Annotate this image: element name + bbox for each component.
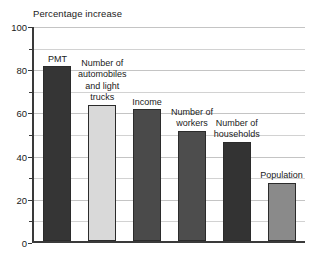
y-tick-minor-90 [29,49,32,50]
y-tick-80 [28,70,32,71]
y-tick-20 [28,200,32,201]
y-tick-0 [28,243,32,244]
bar-label: Population [250,170,313,182]
chart-title: Percentage increase [33,8,122,19]
y-axis-label-20: 20 [16,194,27,205]
gridline-90 [34,49,305,50]
y-tick-40 [28,157,32,158]
y-axis-label-100: 100 [11,22,27,33]
x-axis-line [32,241,305,243]
y-tick-minor-50 [29,135,32,136]
bar [178,131,206,241]
bar [133,109,161,241]
y-axis-label-40: 40 [16,151,27,162]
bar-label: Number of households [201,118,273,141]
y-tick-minor-30 [29,178,32,179]
bar [88,105,116,241]
y-axis-label-0: 0 [22,238,27,249]
plot-area: 020406080100 PMTNumber of automobiles an… [32,27,305,243]
y-axis-label-60: 60 [16,108,27,119]
gridline-20 [34,200,305,201]
y-tick-60 [28,113,32,114]
y-axis-label-80: 80 [16,65,27,76]
gridline-10 [34,221,305,222]
gridline-40 [34,157,305,158]
bar-chart-figure: Percentage increase 020406080100 PMTNumb… [0,0,313,265]
y-tick-minor-70 [29,92,32,93]
y-tick-minor-10 [29,221,32,222]
bar [268,183,296,241]
gridline-100 [34,27,305,28]
bar [223,142,251,241]
y-tick-100 [28,27,32,28]
